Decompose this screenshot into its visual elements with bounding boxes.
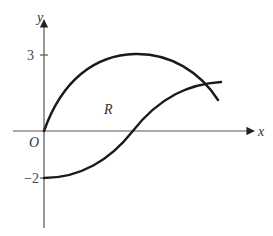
lower-curve [44,82,221,178]
y-tick-label-minus-2: −2 [24,171,39,186]
upper-curve [44,54,218,131]
region-label: R [103,102,113,117]
y-tick-label-3: 3 [27,48,34,63]
graph-figure: y x O 3 −2 R [0,0,273,236]
y-axis-label: y [35,10,44,25]
x-axis-label: x [257,124,265,139]
origin-label: O [29,135,39,150]
